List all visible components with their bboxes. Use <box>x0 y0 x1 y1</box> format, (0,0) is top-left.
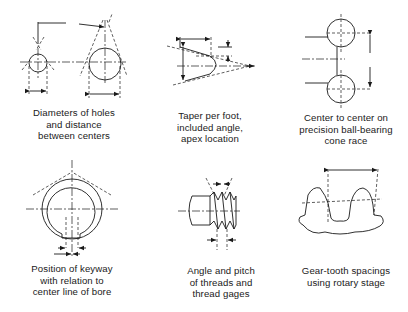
caption-gear: Gear-tooth spacings using rotary stage <box>290 265 402 288</box>
gear-drawing <box>299 169 383 234</box>
caption-keyway: Position of keyway with relation to cent… <box>12 263 132 298</box>
caption-threads: Angle and pitch of threads and thread ga… <box>166 265 276 300</box>
lower-ball-icon <box>327 75 355 103</box>
gear-tooth-icon <box>299 188 383 234</box>
keyway-drawing <box>26 160 118 258</box>
thread-drawing <box>178 178 240 250</box>
bearing-drawing <box>302 14 372 108</box>
caption-bearing: Center to center on precision ball-beari… <box>290 112 402 147</box>
upper-ball-icon <box>327 19 355 47</box>
holes-drawing <box>20 14 127 98</box>
taper-drawing <box>167 37 256 85</box>
caption-taper: Taper per foot, included angle, apex loc… <box>160 110 260 145</box>
caption-holes: Diameters of holes and distance between … <box>10 107 138 142</box>
